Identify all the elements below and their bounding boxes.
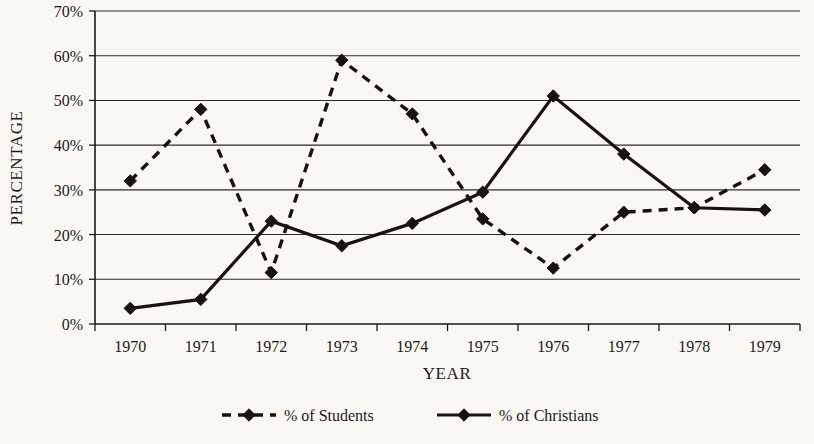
y-axis-tick-label: 30% xyxy=(54,182,83,199)
x-axis-tick-label: 1970 xyxy=(114,338,146,355)
y-axis-tick-label: 70% xyxy=(54,3,83,20)
x-axis-title: YEAR xyxy=(423,364,472,383)
y-axis-tick-label: 0% xyxy=(62,316,83,333)
chart-figure: 0%10%20%30%40%50%60%70% 1970197119721973… xyxy=(0,0,814,444)
x-axis-tick-label: 1976 xyxy=(537,338,569,355)
y-axis-title: PERCENTAGE xyxy=(7,110,26,225)
y-axis-tick-label: 20% xyxy=(54,227,83,244)
y-axis-tick-label: 10% xyxy=(54,271,83,288)
legend-label: % of Students xyxy=(284,407,374,424)
x-axis-tick-label: 1975 xyxy=(467,338,499,355)
x-axis-tick-label: 1978 xyxy=(678,338,710,355)
line-chart-canvas: 0%10%20%30%40%50%60%70% 1970197119721973… xyxy=(0,0,814,444)
x-axis-tick-label: 1977 xyxy=(608,338,640,355)
x-axis-tick-label: 1979 xyxy=(749,338,781,355)
y-axis-tick-label: 60% xyxy=(54,48,83,65)
x-axis-tick-label: 1974 xyxy=(396,338,428,355)
legend-label: % of Christians xyxy=(499,407,599,424)
x-axis-tick-label: 1972 xyxy=(255,338,287,355)
y-axis-tick-label: 40% xyxy=(54,137,83,154)
y-axis-tick-label: 50% xyxy=(54,92,83,109)
x-axis-tick-label: 1973 xyxy=(326,338,358,355)
x-axis-tick-label: 1971 xyxy=(185,338,217,355)
